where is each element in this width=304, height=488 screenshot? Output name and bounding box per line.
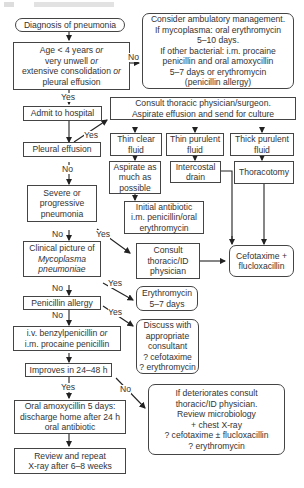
admit-text: Admit to hospital <box>31 108 95 119</box>
consult-id-line: thoracic/ID <box>147 256 188 267</box>
initial-antibiotic-line: i.m. penicillin/oral <box>131 212 197 223</box>
node-thick-purulent: Thick purulent fluid <box>230 133 294 156</box>
ambulatory-line: (penicillin allergy) <box>185 77 251 88</box>
thick-purulent-line: Thick purulent <box>235 134 289 145</box>
ambulatory-line: If other bacterial: i.m. procaine <box>160 46 276 57</box>
intercostal-line: Intercostal <box>176 162 216 173</box>
criteria-line3: extensive consolidation <box>22 66 113 76</box>
node-discuss: Discuss with appropriate consultant ? ce… <box>136 319 199 374</box>
node-penicillin-allergy: Penicillin allergy <box>23 296 101 310</box>
criteria-line1: Age < 4 years <box>40 45 96 55</box>
deteriorates-line: Review microbiology <box>177 409 256 420</box>
thin-purulent-line: Thin purulent <box>170 134 220 145</box>
edge-label-yes: Yes <box>61 383 75 392</box>
oral-amox-line: Oral amoxycillin 5 days: <box>25 401 116 412</box>
oral-amox-line: oral antibiotic <box>45 422 96 433</box>
ambulatory-line: penicillin and oral amoxycillin <box>163 56 274 67</box>
ambulatory-line: 5–10 days. <box>197 35 239 46</box>
node-iv-benzyl: i.v. benzylpenicillin or i.m. procaine p… <box>13 326 121 351</box>
deteriorates-line: ? erythromycin <box>188 441 244 452</box>
discuss-line: ? cefotaxime <box>143 352 192 363</box>
node-consult-thoracic: Consult thoracic physician/surgeon. Aspi… <box>110 97 296 120</box>
cefotaxime-line: Cefotaxime + <box>236 251 287 262</box>
criteria-line4: pleural effusion <box>42 77 100 88</box>
edge-label-yes: Yes <box>108 279 122 288</box>
ambulatory-line: If mycoplasma: oral erythromycin <box>155 25 281 36</box>
review-line: X-ray after 6–8 weeks <box>28 461 112 472</box>
edge-label-no: No <box>52 230 63 239</box>
edge-label-no: No <box>128 53 139 62</box>
deteriorates-line: ? cefotaxime ± flucloxacillin <box>164 430 268 441</box>
thin-clear-line: Thin clear <box>117 134 155 145</box>
erythromycin-line: Erythromycin <box>142 288 192 299</box>
aspirate-line: much as <box>119 172 151 183</box>
severe-line: pneumonia <box>41 209 84 220</box>
node-intercostal: Intercostal drain <box>170 161 221 183</box>
ambulatory-line: 5–7 days or erythromycin <box>170 67 266 78</box>
discuss-line: consultant <box>148 341 187 352</box>
aspirate-line: possible <box>119 183 151 194</box>
improves-text: Improves in 24–48 h <box>30 365 108 376</box>
consult-id-line: Consult <box>153 245 182 256</box>
review-line: Review and repeat <box>34 451 106 462</box>
discuss-line: appropriate <box>146 331 189 342</box>
node-criteria: Age < 4 years or very unwell or extensiv… <box>13 42 130 90</box>
consult-thoracic-line: Consult thoracic physician/surgeon. <box>135 98 271 109</box>
criteria-or: or <box>113 66 121 76</box>
node-initial-antibiotic: Initial antibiotic i.m. penicillin/oral … <box>124 201 204 234</box>
criteria-line2: very unwell <box>45 56 90 66</box>
node-admit: Admit to hospital <box>23 106 102 121</box>
mycoplasma-line: Clinical picture of <box>29 243 94 254</box>
node-cefotaxime: Cefotaxime + flucloxacillin <box>229 245 294 277</box>
node-deteriorates: If deteriorates consult thoracic/ID phys… <box>148 384 285 455</box>
edge-label-yes: Yes <box>108 308 122 317</box>
discuss-line: Discuss with <box>144 320 192 331</box>
mycoplasma-line: pneumoniae <box>38 264 85 275</box>
edge-label-no: No <box>120 385 131 394</box>
aspirate-line: Aspirate as <box>114 162 157 173</box>
edge-label-no: No <box>62 165 73 174</box>
erythromycin-line: 5–7 days <box>150 299 185 310</box>
iv-benzyl-or: or <box>100 328 108 338</box>
deteriorates-line: If deteriorates consult <box>175 388 257 399</box>
node-start-text: Diagnosis of pneumonia <box>24 20 116 31</box>
node-thin-purulent: Thin purulent fluid <box>166 133 224 156</box>
node-erythromycin: Erythromycin 5–7 days <box>136 286 198 311</box>
node-improves: Improves in 24–48 h <box>25 363 112 377</box>
consult-thoracic-line: Aspirate effusion and send for culture <box>132 109 274 120</box>
node-thoracotomy: Thoracotomy <box>234 161 294 184</box>
deteriorates-line: thoracic/ID physician. <box>176 399 258 410</box>
edge-label-yes: Yes <box>96 230 110 239</box>
edge-label-yes: Yes <box>61 93 75 102</box>
intercostal-line: drain <box>186 172 205 183</box>
discuss-line: ? erythromycin <box>139 362 195 373</box>
node-aspirate: Aspirate as much as possible <box>109 161 161 194</box>
severe-line: progressive <box>40 198 84 209</box>
node-pleural-effusion: Pleural effusion <box>23 142 101 157</box>
initial-antibiotic-line: erythromycin <box>139 223 188 234</box>
thin-purulent-line: fluid <box>187 145 203 156</box>
deteriorates-line: + chest X-ray <box>191 420 242 431</box>
node-oral-amox: Oral amoxycillin 5 days: discharge home … <box>14 400 126 434</box>
node-start: Diagnosis of pneumonia <box>15 18 125 32</box>
edge-label-no: No <box>52 284 63 293</box>
edge-label-no: No <box>52 311 63 320</box>
node-consult-id: Consult thoracic/ID physician <box>136 243 200 279</box>
consult-id-line: physician <box>150 266 186 277</box>
edge-label-yes: Yes <box>84 131 98 140</box>
oral-amox-line: discharge home after 24 h <box>20 412 120 423</box>
node-ambulatory: Consider ambulatory management. If mycop… <box>142 13 294 89</box>
thoracotomy-text: Thoracotomy <box>239 167 289 178</box>
node-thin-clear: Thin clear fluid <box>110 133 162 156</box>
penicillin-allergy-text: Penicillin allergy <box>31 298 93 309</box>
mycoplasma-line: Mycoplasma <box>38 254 86 265</box>
initial-antibiotic-line: Initial antibiotic <box>136 202 192 213</box>
severe-line: Severe or <box>43 188 80 199</box>
thin-clear-line: fluid <box>128 145 144 156</box>
node-review: Review and repeat X-ray after 6–8 weeks <box>14 448 126 474</box>
ambulatory-line: Consider ambulatory management. <box>151 14 285 25</box>
criteria-or: or <box>96 45 104 55</box>
node-mycoplasma: Clinical picture of Mycoplasma pneumonia… <box>23 241 101 277</box>
thick-purulent-line: fluid <box>254 145 270 156</box>
criteria-or: or <box>90 56 98 66</box>
